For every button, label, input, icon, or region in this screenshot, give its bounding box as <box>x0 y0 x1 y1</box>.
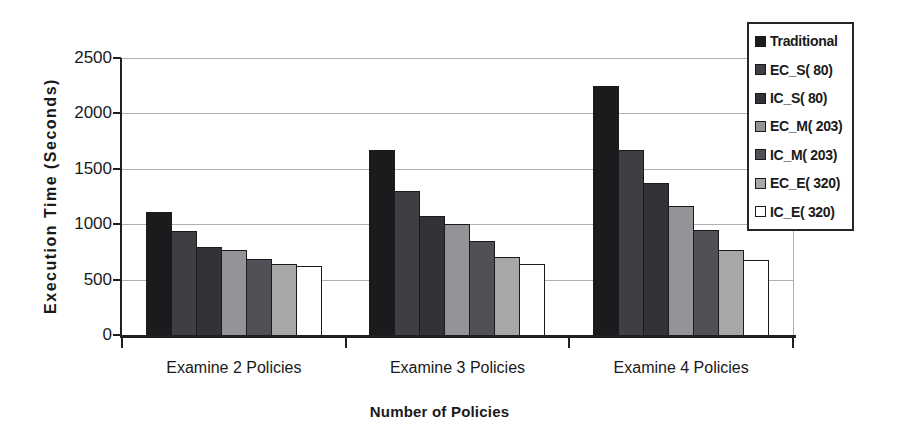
x-category-label-3: Examine 4 Policies <box>569 359 793 377</box>
bar-ics80-group3 <box>643 183 669 335</box>
legend-label: IC_E( 320) <box>770 204 835 220</box>
bar-ics80-group1 <box>196 247 222 335</box>
x-tick-mark-0 <box>121 338 123 348</box>
legend-swatch-icon <box>755 64 766 75</box>
bar-ece320-group3 <box>718 250 744 335</box>
x-axis-line <box>120 335 796 338</box>
x-category-label-2: Examine 3 Policies <box>346 359 570 377</box>
legend-swatch-icon <box>755 149 766 160</box>
legend-label: EC_S( 80) <box>770 62 833 78</box>
bar-ecm203-group3 <box>668 206 694 335</box>
legend-item-ecs80: EC_S( 80) <box>755 62 850 78</box>
legend-swatch-icon <box>755 36 766 47</box>
legend-item-ics80: IC_S( 80) <box>755 90 850 106</box>
bar-group-1 <box>122 58 346 335</box>
legend-item-ecm203: EC_M( 203) <box>755 118 850 134</box>
legend-label: IC_S( 80) <box>770 90 827 106</box>
plot-area <box>122 58 794 335</box>
bar-ics80-group2 <box>419 216 445 335</box>
y-axis-line <box>120 58 122 338</box>
bar-ice320-group3 <box>743 260 769 335</box>
bar-ecs80-group3 <box>618 150 644 335</box>
legend-item-ice320: IC_E( 320) <box>755 204 850 220</box>
y-tick-label-500: 500 <box>58 270 112 290</box>
bar-ice320-group1 <box>296 266 322 335</box>
legend-item-traditional: Traditional <box>755 33 850 49</box>
legend-label: EC_E( 320) <box>770 175 840 191</box>
y-tick-label-2500: 2500 <box>58 48 112 68</box>
legend-item-icm203: IC_M( 203) <box>755 147 850 163</box>
bar-chart-figure: Execution Time (Seconds) 050010001500200… <box>0 0 897 448</box>
x-tick-mark-1 <box>345 338 347 348</box>
legend-swatch-icon <box>755 178 766 189</box>
legend: TraditionalEC_S( 80)IC_S( 80)EC_M( 203)I… <box>747 22 854 231</box>
bar-ecs80-group1 <box>171 231 197 335</box>
legend-swatch-icon <box>755 206 766 217</box>
legend-label: EC_M( 203) <box>770 118 842 134</box>
bar-traditional-group3 <box>593 86 619 335</box>
y-tick-label-0: 0 <box>58 325 112 345</box>
bar-traditional-group2 <box>369 150 395 335</box>
x-tick-mark-3 <box>792 338 794 348</box>
bar-icm203-group1 <box>246 259 272 335</box>
bar-ece320-group2 <box>494 257 520 335</box>
bar-ecs80-group2 <box>394 191 420 335</box>
x-axis-title: Number of Policies <box>104 403 775 420</box>
bar-ecm203-group2 <box>444 224 470 335</box>
legend-label: Traditional <box>770 33 838 49</box>
bar-ice320-group2 <box>519 264 545 335</box>
x-category-label-1: Examine 2 Policies <box>122 359 346 377</box>
legend-item-ece320: EC_E( 320) <box>755 175 850 191</box>
bar-ecm203-group1 <box>221 250 247 335</box>
y-tick-label-1000: 1000 <box>58 214 112 234</box>
y-tick-label-1500: 1500 <box>58 159 112 179</box>
x-tick-mark-2 <box>568 338 570 348</box>
legend-label: IC_M( 203) <box>770 147 837 163</box>
legend-swatch-icon <box>755 93 766 104</box>
bar-group-2 <box>346 58 570 335</box>
bar-ece320-group1 <box>271 264 297 335</box>
bar-icm203-group2 <box>469 241 495 335</box>
legend-swatch-icon <box>755 121 766 132</box>
y-tick-label-2000: 2000 <box>58 103 112 123</box>
bar-icm203-group3 <box>693 230 719 335</box>
bar-traditional-group1 <box>146 212 172 335</box>
